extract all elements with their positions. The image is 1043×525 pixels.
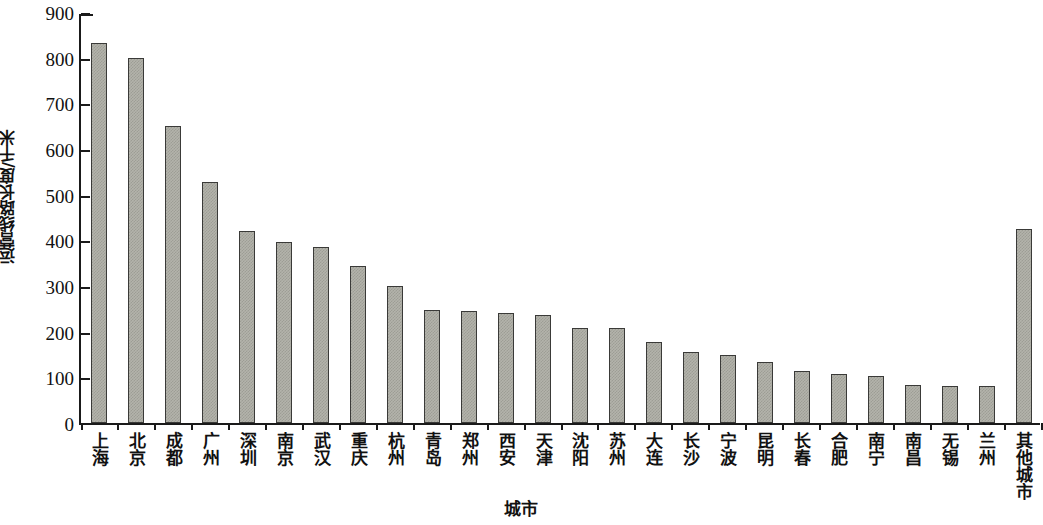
bar — [831, 374, 847, 423]
y-tick-label: 100 — [22, 369, 74, 388]
x-tick-mark — [856, 423, 858, 430]
x-tick-mark — [708, 423, 710, 430]
y-tick-mark — [81, 241, 90, 243]
x-tick-mark — [487, 423, 489, 430]
y-tick-label: 400 — [22, 232, 74, 251]
x-tick-mark — [339, 423, 341, 430]
x-tick-label: 西安 — [493, 432, 515, 466]
y-tick-mark — [81, 13, 90, 15]
y-tick-label: 500 — [22, 187, 74, 206]
x-tick-label: 昆明 — [752, 432, 774, 466]
bar — [313, 247, 329, 423]
y-tick-mark — [81, 287, 90, 289]
x-tick-label: 合肥 — [826, 432, 848, 466]
x-tick-mark — [228, 423, 230, 430]
bar — [128, 58, 144, 423]
x-tick-label: 重庆 — [345, 432, 367, 466]
x-tick-mark — [117, 423, 119, 430]
y-tick-label: 900 — [22, 4, 74, 23]
x-tick-mark — [782, 423, 784, 430]
bar — [1016, 229, 1032, 423]
plot-area — [79, 14, 1040, 425]
bar — [424, 310, 440, 423]
x-tick-mark — [634, 423, 636, 430]
x-tick-mark — [81, 423, 83, 430]
x-tick-label: 南宁 — [863, 432, 885, 466]
x-tick-mark — [265, 423, 267, 430]
bar — [165, 126, 181, 423]
bar — [535, 315, 551, 423]
y-tick-mark — [81, 196, 90, 198]
y-tick-mark — [81, 104, 90, 106]
x-tick-label: 杭州 — [382, 432, 404, 466]
bar — [461, 311, 477, 423]
x-tick-label: 南昌 — [900, 432, 922, 466]
x-tick-label: 苏州 — [604, 432, 626, 466]
x-tick-label: 宁波 — [715, 432, 737, 466]
bar — [683, 352, 699, 423]
x-tick-mark — [930, 423, 932, 430]
x-tick-label: 南京 — [271, 432, 293, 466]
bar — [794, 371, 810, 423]
x-tick-label: 北京 — [123, 432, 145, 466]
y-tick-mark — [81, 378, 90, 380]
y-tick-label: 300 — [22, 278, 74, 297]
x-tick-mark — [302, 423, 304, 430]
x-tick-label: 深圳 — [234, 432, 256, 466]
x-tick-label: 广州 — [197, 432, 219, 466]
x-tick-mark — [376, 423, 378, 430]
x-tick-mark — [893, 423, 895, 430]
x-tick-mark — [413, 423, 415, 430]
bar — [276, 242, 292, 423]
bar — [91, 43, 107, 423]
bar — [239, 231, 255, 423]
y-tick-mark — [81, 333, 90, 335]
bar — [720, 355, 736, 424]
bar — [979, 386, 995, 423]
x-tick-label: 沈阳 — [567, 432, 589, 466]
x-tick-label: 其他城市 — [1011, 432, 1033, 500]
x-tick-mark — [450, 423, 452, 430]
x-tick-label: 上海 — [86, 432, 108, 466]
bar — [202, 182, 218, 423]
y-axis-tick-labels: 0100200300400500600700800900 — [22, 0, 74, 440]
y-tick-label: 700 — [22, 95, 74, 114]
y-tick-label: 0 — [22, 415, 74, 434]
x-tick-mark — [671, 423, 673, 430]
x-tick-label: 兰州 — [974, 432, 996, 466]
bar — [942, 386, 958, 423]
x-tick-label: 长沙 — [678, 432, 700, 466]
x-tick-mark — [561, 423, 563, 430]
bar — [350, 266, 366, 423]
x-tick-mark — [967, 423, 969, 430]
x-tick-label: 成都 — [160, 432, 182, 466]
bar — [572, 328, 588, 423]
x-tick-label: 武汉 — [308, 432, 330, 466]
x-tick-mark — [154, 423, 156, 430]
x-tick-label: 大连 — [641, 432, 663, 466]
y-tick-mark — [81, 150, 90, 152]
bar — [757, 362, 773, 423]
y-tick-label: 600 — [22, 141, 74, 160]
x-tick-mark — [597, 423, 599, 430]
x-tick-label: 青岛 — [419, 432, 441, 466]
x-tick-label: 无锡 — [937, 432, 959, 466]
bar — [868, 376, 884, 423]
x-tick-label: 长春 — [789, 432, 811, 466]
bar — [646, 342, 662, 423]
bar — [609, 328, 625, 423]
x-axis-title: 城市 — [0, 500, 1042, 518]
bar — [498, 313, 514, 423]
x-tick-label: 天津 — [530, 432, 552, 466]
x-tick-mark — [819, 423, 821, 430]
y-tick-label: 800 — [22, 50, 74, 69]
x-tick-mark — [524, 423, 526, 430]
bar-series — [81, 14, 1040, 423]
x-tick-mark — [745, 423, 747, 430]
x-tick-mark — [191, 423, 193, 430]
y-tick-label: 200 — [22, 324, 74, 343]
bar — [387, 286, 403, 423]
bar — [905, 385, 921, 423]
x-tick-mark — [1004, 423, 1006, 430]
